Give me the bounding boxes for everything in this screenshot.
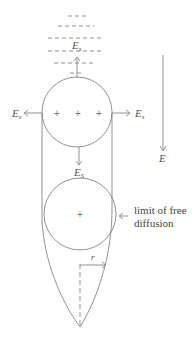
right-field-label: Es xyxy=(135,108,144,121)
envelope-left xyxy=(42,113,80,327)
radius-label: r xyxy=(91,253,95,262)
envelope-right xyxy=(80,113,112,327)
limit-label-line2: diffusion xyxy=(134,217,187,230)
top-field-label: Es xyxy=(72,40,81,53)
down-field-label: ES xyxy=(74,167,84,180)
external-field-label: E xyxy=(159,153,166,164)
limit-label-line1: limit of free xyxy=(134,204,187,217)
diagram-canvas: + + + + xyxy=(0,0,194,337)
svg-text:+: + xyxy=(77,209,83,220)
limit-label: limit of free diffusion xyxy=(134,204,187,230)
svg-text:+: + xyxy=(75,108,81,119)
svg-text:+: + xyxy=(54,108,60,119)
left-field-label: Es xyxy=(12,108,21,121)
svg-text:+: + xyxy=(96,108,102,119)
